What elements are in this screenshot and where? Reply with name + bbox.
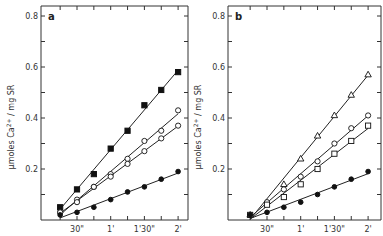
chart-panel-a: 0.20.40.60.830"1'1'30"2'µmoles Ca2+ / mg…: [5, 6, 188, 234]
data-point-circle-filled: [248, 213, 253, 218]
y-tick-label: 0.6: [212, 63, 225, 72]
data-point-square-filled: [159, 87, 164, 92]
data-point-circle-open: [315, 159, 320, 164]
data-point-square-open: [366, 123, 371, 128]
data-point-circle-open: [176, 108, 181, 113]
data-point-triangle-open: [365, 71, 371, 77]
data-point-triangle-open: [314, 132, 320, 138]
data-point-square-filled: [91, 172, 96, 177]
y-axis-label: µmoles Ca2+ / mg SR: [192, 84, 203, 169]
x-tick-label: 2': [364, 225, 371, 234]
panel-label: a: [48, 11, 55, 22]
y-tick-label: 0.2: [212, 165, 225, 174]
data-point-circle-filled: [58, 213, 63, 218]
data-point-circle-open: [125, 161, 130, 166]
data-point-circle-filled: [108, 197, 113, 202]
data-point-circle-open: [125, 156, 130, 161]
data-point-triangle-open: [298, 155, 304, 161]
data-point-square-filled: [176, 70, 181, 75]
panel-label: b: [235, 11, 242, 22]
data-point-square-open: [315, 166, 320, 171]
y-tick-label: 0.2: [25, 165, 38, 174]
data-point-circle-open: [159, 136, 164, 141]
y-tick-label: 0.8: [25, 12, 38, 21]
data-point-circle-open: [142, 138, 147, 143]
data-point-square-filled: [142, 103, 147, 108]
data-point-circle-open: [142, 149, 147, 154]
data-point-circle-filled: [315, 192, 320, 197]
data-point-square-filled: [74, 187, 79, 192]
data-point-circle-filled: [92, 205, 97, 210]
y-tick-label: 0.4: [212, 114, 225, 123]
data-point-circle-filled: [349, 177, 354, 182]
data-point-square-filled: [58, 205, 63, 210]
y-axis-label: µmoles Ca2+ / mg SR: [5, 84, 16, 169]
data-point-circle-filled: [176, 169, 181, 174]
data-point-square-open: [298, 182, 303, 187]
data-point-circle-filled: [142, 185, 147, 190]
data-point-circle-open: [349, 126, 354, 131]
data-point-circle-open: [108, 174, 113, 179]
data-point-circle-open: [159, 128, 164, 133]
x-tick-label: 1': [297, 225, 304, 234]
data-point-circle-open: [332, 141, 337, 146]
data-point-circle-filled: [298, 200, 303, 205]
data-point-square-filled: [108, 146, 113, 151]
data-point-circle-open: [91, 184, 96, 189]
data-point-circle-filled: [366, 169, 371, 174]
data-point-circle-filled: [159, 177, 164, 182]
data-point-circle-filled: [332, 185, 337, 190]
data-point-square-open: [264, 202, 269, 207]
y-tick-label: 0.4: [25, 114, 38, 123]
data-point-square-filled: [125, 128, 130, 133]
x-tick-label: 1': [107, 225, 114, 234]
data-point-circle-filled: [75, 210, 80, 215]
data-point-square-open: [281, 194, 286, 199]
data-point-circle-filled: [282, 205, 287, 210]
x-tick-label: 2': [174, 225, 181, 234]
data-point-circle-open: [176, 123, 181, 128]
data-point-circle-open: [366, 113, 371, 118]
data-point-square-open: [332, 151, 337, 156]
x-tick-label: 30": [70, 225, 84, 234]
chart-canvas: 0.20.40.60.830"1'1'30"2'µmoles Ca2+ / mg…: [0, 0, 383, 236]
data-point-circle-filled: [125, 190, 130, 195]
chart-panel-b: 0.20.40.60.830"1'1'30"2'µmoles Ca2+ / mg…: [192, 6, 381, 234]
y-tick-label: 0.6: [25, 63, 38, 72]
x-tick-label: 1'30": [134, 225, 155, 234]
data-point-circle-filled: [265, 210, 270, 215]
x-tick-label: 1'30": [324, 225, 345, 234]
x-tick-label: 30": [260, 225, 274, 234]
y-tick-label: 0.8: [212, 12, 225, 21]
data-point-square-open: [349, 138, 354, 143]
data-point-circle-open: [74, 200, 79, 205]
